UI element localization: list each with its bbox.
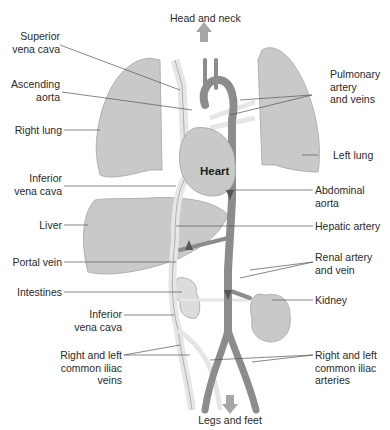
label-abdominal-aorta: Abdominal aorta [315, 184, 365, 209]
label-intestines: Intestines [0, 286, 62, 299]
label-kidney: Kidney [315, 294, 347, 307]
arrow-down-icon [222, 395, 238, 414]
label-left-lung: Left lung [333, 149, 373, 162]
left-lung [258, 48, 319, 172]
label-ascending-aorta: Ascending aorta [0, 78, 60, 103]
label-portal-vein: Portal vein [0, 256, 62, 269]
label-head-and-neck: Head and neck [170, 12, 240, 25]
label-pulmonary-artery-veins: Pulmonary artery and veins [330, 68, 380, 106]
label-liver: Liver [0, 219, 62, 232]
label-right-lung: Right lung [0, 124, 62, 137]
arrow-up-icon [196, 22, 212, 42]
label-common-iliac-veins: Right and left common iliac veins [40, 349, 122, 387]
liver [84, 198, 228, 275]
label-common-iliac-arteries: Right and left common iliac arteries [315, 349, 377, 387]
right-lung [96, 58, 162, 177]
kidney [251, 294, 291, 342]
label-renal-artery-vein: Renal artery and vein [315, 251, 372, 276]
label-heart: Heart [200, 165, 229, 178]
label-hepatic-artery: Hepatic artery [315, 220, 380, 233]
heart [180, 128, 236, 196]
label-legs-and-feet: Legs and feet [190, 414, 270, 427]
label-inferior-vena-cava-lower: Inferior vena cava [40, 308, 122, 333]
label-inferior-vena-cava-upper: Inferior vena cava [0, 172, 62, 197]
label-superior-vena-cava: Superior vena cava [0, 30, 60, 55]
